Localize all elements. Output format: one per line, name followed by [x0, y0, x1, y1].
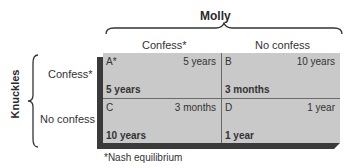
payoff-matrix: A* 5 years 5 years B 10 years 3 months C…	[103, 53, 340, 143]
row-player-title: Knuckles	[9, 69, 21, 119]
knuckles-payoff: 5 years	[106, 84, 140, 95]
footnote: *Nash equilibrium	[104, 152, 182, 163]
knuckles-payoff: 10 years	[106, 130, 146, 141]
molly-payoff: 10 years	[297, 56, 335, 67]
cell-id: C	[106, 102, 113, 113]
row-brace-icon	[26, 53, 40, 149]
row-header-confess: Confess*	[48, 68, 93, 80]
column-header-no-confess: No confess	[255, 39, 310, 51]
molly-payoff: 1 year	[307, 102, 335, 113]
cell-d: D 1 year 1 year	[222, 99, 340, 144]
column-header-confess: Confess*	[142, 39, 187, 51]
cell-id: A*	[106, 56, 117, 67]
cell-c: C 3 months 10 years	[103, 99, 221, 144]
knuckles-payoff: 1 year	[225, 130, 254, 141]
cell-b: B 10 years 3 months	[222, 53, 340, 98]
molly-payoff: 3 months	[175, 102, 216, 113]
cell-id: B	[225, 56, 232, 67]
molly-payoff: 5 years	[183, 56, 216, 67]
row-header-no-confess: No confess	[40, 113, 95, 125]
cell-a: A* 5 years 5 years	[103, 53, 221, 98]
knuckles-payoff: 3 months	[225, 84, 269, 95]
column-player-title: Molly	[200, 9, 231, 23]
cell-id: D	[225, 102, 232, 113]
column-brace-icon	[104, 22, 344, 36]
divider-horizontal	[103, 98, 340, 99]
